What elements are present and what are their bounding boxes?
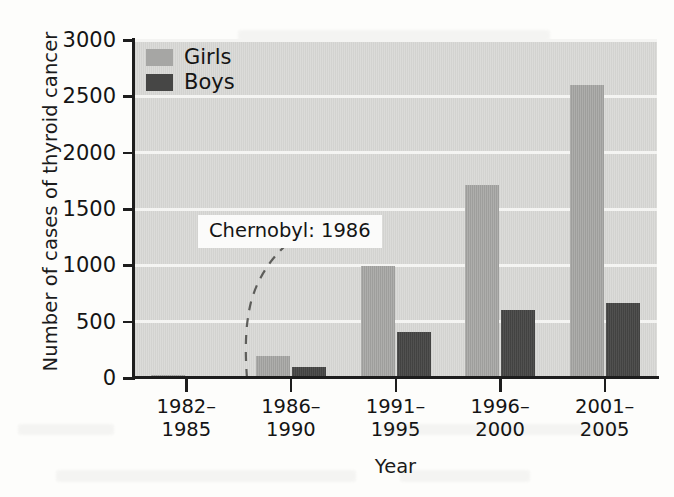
x-tick-label-line: 1996– (445, 396, 555, 419)
x-tick-label-line: 1985 (131, 419, 241, 442)
x-tick-mark (290, 379, 293, 392)
thyroid-cancer-bar-chart: Number of cases of thyroid cancer Cherno… (0, 0, 674, 497)
bar-boys-2001-2005 (606, 303, 640, 378)
y-tick-label: 2000 (38, 143, 116, 164)
x-tick-label: 1982–1985 (131, 396, 241, 441)
bar-girls-1991-1995 (361, 266, 395, 378)
x-tick-label-line: 2001– (550, 396, 660, 419)
y-tick-mark (123, 377, 132, 380)
y-tick-label: 0 (38, 368, 116, 389)
gridline (134, 39, 657, 42)
y-tick-mark (123, 264, 132, 267)
legend: Girls Boys (146, 45, 235, 95)
boys-swatch-icon (146, 74, 173, 91)
x-tick-mark (395, 379, 398, 392)
legend-label-boys: Boys (184, 72, 235, 93)
bar-boys-1996-2000 (501, 310, 535, 378)
x-tick-label-line: 2005 (550, 419, 660, 442)
y-tick-mark (123, 39, 132, 42)
x-tick-mark (604, 379, 607, 392)
y-tick-label: 3000 (38, 30, 116, 51)
plot-area: Chernobyl: 1986 Girls Boys (134, 40, 657, 378)
chernobyl-annotation-label: Chernobyl: 1986 (198, 215, 382, 248)
x-tick-mark (185, 379, 188, 392)
y-tick-label: 1500 (38, 199, 116, 220)
y-axis-line (132, 38, 135, 380)
x-tick-label: 1996–2000 (445, 396, 555, 441)
x-tick-label: 1986–1990 (236, 396, 346, 441)
y-tick-mark (123, 208, 132, 211)
y-tick-mark (123, 152, 132, 155)
legend-item-girls: Girls (146, 45, 235, 70)
x-tick-label-line: 1991– (341, 396, 451, 419)
bar-girls-1986-1990 (256, 356, 290, 378)
legend-label-girls: Girls (184, 47, 232, 68)
x-tick-label-line: 1982– (131, 396, 241, 419)
y-tick-label: 500 (38, 312, 116, 333)
y-tick-label: 1000 (38, 255, 116, 276)
x-tick-label-line: 1990 (236, 419, 346, 442)
x-tick-label-line: 1986– (236, 396, 346, 419)
x-axis-title: Year (134, 455, 657, 478)
y-tick-mark (123, 95, 132, 98)
bar-girls-2001-2005 (570, 85, 604, 378)
legend-item-boys: Boys (146, 70, 235, 95)
y-tick-label: 2500 (38, 86, 116, 107)
girls-swatch-icon (146, 49, 173, 66)
x-tick-label-line: 1995 (341, 419, 451, 442)
bar-boys-1991-1995 (397, 332, 431, 378)
x-tick-mark (499, 379, 502, 392)
x-tick-label-line: 2000 (445, 419, 555, 442)
x-tick-label: 2001–2005 (550, 396, 660, 441)
bar-girls-1996-2000 (465, 185, 499, 378)
x-tick-label: 1991–1995 (341, 396, 451, 441)
y-tick-mark (123, 321, 132, 324)
